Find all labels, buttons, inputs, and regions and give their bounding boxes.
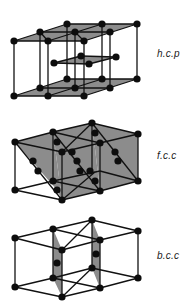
atom (11, 186, 18, 193)
atom (106, 84, 113, 91)
atom (88, 216, 95, 223)
hcp-structure (10, 20, 140, 99)
lattice-edge (100, 231, 138, 240)
atom (58, 196, 65, 203)
atom (53, 186, 60, 193)
atom (96, 139, 103, 146)
lattice-plane (92, 123, 138, 191)
atom (76, 167, 83, 174)
atom (114, 157, 121, 164)
atom (134, 274, 141, 281)
atom (58, 148, 65, 155)
lattice-edge (15, 229, 53, 238)
atom (88, 264, 95, 271)
atom (10, 37, 17, 44)
atom (71, 28, 78, 35)
lattice-edge (15, 278, 53, 287)
lattice-edge (15, 287, 62, 297)
atom (106, 28, 113, 35)
atom (77, 52, 84, 59)
atom (49, 274, 56, 281)
atom (91, 129, 98, 136)
atom (134, 227, 141, 234)
atom (49, 225, 56, 232)
bcc-structure (11, 216, 141, 300)
atom (10, 92, 17, 99)
fcc-label: f.c.c (157, 150, 176, 161)
atom (63, 20, 70, 27)
atom (63, 75, 70, 82)
atom (91, 177, 98, 184)
atom (73, 157, 80, 164)
atom (96, 284, 103, 291)
atom (71, 84, 78, 91)
atom (58, 293, 65, 300)
bcc-label: b.c.c (157, 250, 179, 261)
hcp-label: h.c.p (157, 48, 180, 59)
atom (80, 92, 87, 99)
atom (49, 177, 56, 184)
atom (80, 37, 87, 44)
lattice-edge (92, 220, 138, 231)
atom (92, 250, 99, 257)
atom (34, 167, 41, 174)
atom (36, 84, 43, 91)
lattice-edge (53, 220, 92, 229)
atom (50, 59, 57, 66)
atom (133, 75, 140, 82)
atom (88, 119, 95, 126)
atom (11, 283, 18, 290)
atom (53, 138, 60, 145)
atom (112, 53, 119, 60)
atom (58, 246, 65, 253)
atom (134, 130, 141, 137)
atom (111, 148, 118, 155)
atom (49, 128, 56, 135)
atom (85, 60, 92, 67)
lattice-edge (62, 288, 100, 297)
atom (96, 236, 103, 243)
atom (133, 20, 140, 27)
atom (53, 259, 60, 266)
atom (36, 28, 43, 35)
atom (98, 20, 105, 27)
atom (96, 187, 103, 194)
atom (68, 148, 75, 155)
atom (29, 157, 36, 164)
atom (11, 234, 18, 241)
atom (44, 92, 51, 99)
atom (134, 177, 141, 184)
atom (86, 167, 93, 174)
atom (11, 138, 18, 145)
atom (98, 75, 105, 82)
lattice-edge (100, 278, 138, 288)
fcc-structure (11, 119, 141, 203)
atom (44, 37, 51, 44)
